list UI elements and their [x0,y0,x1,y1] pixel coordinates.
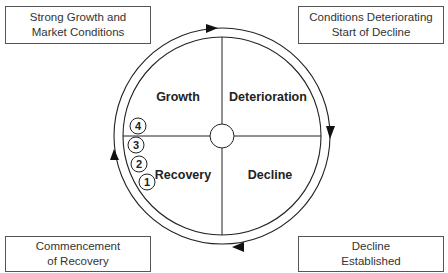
stage-markers: 1 2 3 4 [128,118,155,190]
quadrant-label-recovery: Recovery [155,168,211,182]
stage-number: 1 [144,176,150,188]
stage-number: 3 [133,139,139,151]
quadrant-label-growth: Growth [156,90,200,104]
center-circle [210,124,234,148]
stage-number: 4 [135,120,142,132]
arrow-down-icon [326,126,335,139]
arrow-right-icon [206,24,218,33]
cycle-diagram: 1 2 3 4 Growth Deterioration Decline Rec… [0,0,448,273]
quadrant-label-deterioration: Deterioration [229,90,307,104]
quadrant-label-decline: Decline [248,168,293,182]
stage-number: 2 [136,158,142,170]
arrow-up-icon [110,149,119,160]
